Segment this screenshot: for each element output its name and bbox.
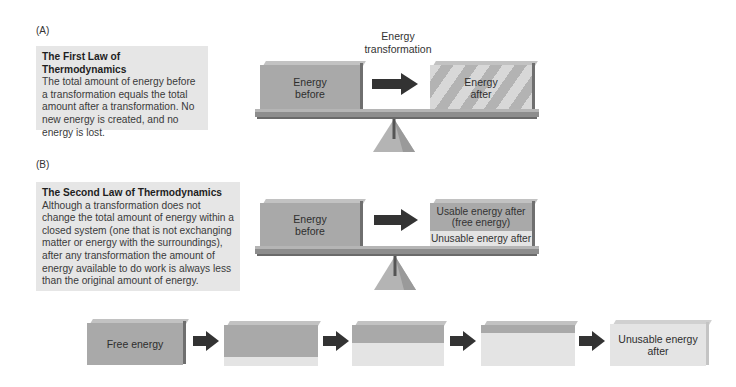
- block-face: [481, 325, 575, 366]
- block-label: Energy: [293, 76, 326, 88]
- unusable-energy-label: Unusable energy after: [610, 333, 706, 357]
- unusable-energy-segment: Unusable energy after: [430, 231, 532, 247]
- energy-after-block-a: Energy after: [430, 61, 535, 110]
- sequence-stage-3: [352, 321, 444, 366]
- sequence-stage-5: Unusable energy after: [610, 320, 709, 366]
- usable-energy-segment: Usable energy after (free energy): [430, 203, 532, 231]
- sequence-arrow-icon: [579, 331, 605, 351]
- caption-line: Energy: [358, 30, 438, 43]
- first-law-title: The First Law of Thermodynamics: [42, 51, 202, 76]
- panel-a-label: (A): [36, 25, 49, 36]
- block-side: [183, 321, 186, 364]
- first-law-text: The total amount of energy before a tran…: [42, 76, 195, 137]
- transformation-arrow-icon: [374, 209, 418, 231]
- energy-after-block-b: Usable energy after (free energy) Unusab…: [430, 199, 535, 247]
- block-side: [360, 201, 363, 246]
- block-side: [532, 63, 535, 109]
- first-law-box: The First Law of Thermodynamics The tota…: [36, 46, 208, 130]
- second-law-title: The Second Law of Thermodynamics: [42, 187, 234, 200]
- block-side: [706, 322, 709, 365]
- usable-energy-segment: [352, 325, 444, 343]
- caption-line: transformation: [358, 43, 438, 56]
- sequence-arrow-icon: [450, 331, 476, 351]
- sequence-stage-2: [224, 321, 318, 366]
- usable-energy-label: (free energy): [452, 217, 510, 229]
- free-energy-label: Free energy: [107, 338, 164, 350]
- block-face: Energy before: [260, 203, 360, 247]
- block-label: Energy: [293, 213, 326, 225]
- block-label: after: [464, 88, 497, 100]
- second-law-text: Although a transformation does not chang…: [42, 200, 234, 287]
- usable-energy-label: Usable energy after: [437, 206, 526, 218]
- energy-before-block-a: Energy before: [260, 61, 363, 110]
- energy-before-block-b: Energy before: [260, 199, 363, 247]
- block-label: before: [293, 225, 326, 237]
- block-face: Usable energy after (free energy) Unusab…: [430, 203, 532, 247]
- block-face: Free energy: [87, 323, 183, 365]
- block-face: Energy after: [430, 65, 532, 110]
- usable-energy-segment: [481, 325, 575, 333]
- block-face: [352, 325, 444, 366]
- balance-beam-a: [255, 109, 539, 117]
- block-face: Unusable energy after: [610, 324, 706, 366]
- balance-beam-b: [255, 246, 539, 254]
- usable-energy-segment: [224, 325, 318, 357]
- fulcrum-icon: [373, 119, 415, 152]
- transformation-arrow-icon: [372, 73, 418, 95]
- unusable-energy-label: Unusable energy after: [431, 233, 531, 245]
- sequence-arrow-icon: [193, 331, 219, 351]
- block-side: [360, 63, 363, 109]
- energy-transformation-caption: Energy transformation: [358, 30, 438, 55]
- block-face: Energy before: [260, 65, 360, 110]
- block-face: [224, 325, 318, 366]
- sequence-arrow-icon: [323, 331, 349, 351]
- block-label: before: [293, 88, 326, 100]
- panel-b-label: (B): [36, 159, 49, 170]
- sequence-stage-1: Free energy: [87, 319, 186, 365]
- second-law-box: The Second Law of Thermodynamics Althoug…: [36, 182, 240, 291]
- fulcrum-icon: [374, 256, 416, 290]
- block-side: [532, 201, 535, 246]
- sequence-stage-4: [481, 321, 575, 366]
- block-label: Energy: [464, 76, 497, 88]
